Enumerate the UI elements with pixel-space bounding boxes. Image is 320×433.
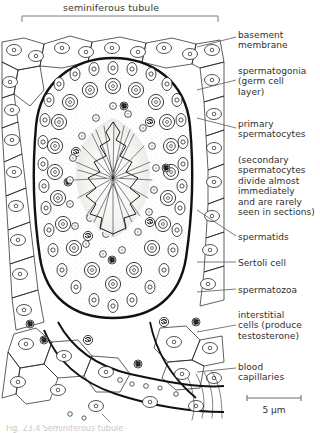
figure-top-label: seminiferous tubule	[0, 2, 222, 13]
seminiferous-tubule-figure: seminiferous tubule	[0, 0, 320, 433]
scale-bar-label: 5 µm	[244, 405, 304, 415]
leader-line-spermatozoa	[197, 289, 236, 292]
label-spermatogonia: spermatogonia (germ cell layer)	[238, 66, 306, 97]
label-column: basement membranespermatogonia (germ cel…	[238, 0, 320, 433]
label-spermatids: spermatids	[238, 232, 289, 242]
label-blood-capillaries: blood capillaries	[238, 362, 284, 383]
leader-line-blood-capillaries	[197, 368, 236, 372]
scale-bar	[244, 392, 304, 406]
leader-line-basement-membrane	[197, 37, 236, 47]
label-basement-membrane: basement membrane	[238, 30, 288, 51]
label-leader-lines	[195, 0, 243, 433]
leader-line-spermatogonia	[197, 80, 236, 90]
label-sertoli-cell: Sertoli cell	[238, 258, 286, 268]
tubule-drawing	[0, 22, 226, 422]
label-interstitial-cells: interstitial cells (produce testosterone…	[238, 310, 302, 341]
leader-line-primary-spermatocytes	[197, 118, 236, 128]
leader-line-spermatids	[197, 210, 236, 236]
label-spermatozoa: spermatozoa	[238, 285, 297, 295]
leader-line-interstitial-cells	[197, 325, 236, 332]
label-secondary-spermatocytes: (secondary spermatocytes divide almost i…	[238, 155, 315, 217]
label-primary-spermatocytes: primary spermatocytes	[238, 119, 305, 140]
figure-caption: Fig. 23.4 Seminiferous tubule	[6, 425, 126, 433]
